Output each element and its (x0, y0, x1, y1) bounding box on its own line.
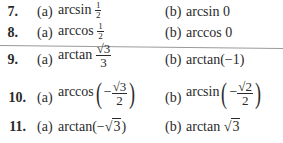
part-b-label: (b) (165, 4, 181, 20)
part-a-expression: arcsin 12 (58, 1, 101, 20)
right-paren: ) (255, 78, 261, 108)
part-a-label: (a) (37, 119, 53, 135)
denominator: 2 (95, 11, 102, 20)
part-a-label: (a) (37, 4, 53, 20)
denominator: 2 (237, 94, 253, 107)
left-paren: ( (221, 78, 227, 108)
fraction: √22 (237, 80, 253, 107)
left-paren: ( (96, 78, 102, 108)
part-a-label: (a) (37, 52, 53, 68)
problem-11: 11. (a) arctan(−√3) (b) arctan √3 (0, 119, 283, 139)
part-b-label: (b) (165, 52, 181, 68)
page-fold-line (0, 45, 283, 49)
right-paren: ) (129, 78, 135, 108)
part-a-expression: arccos(−√32) (58, 78, 137, 108)
problem-number: 11. (0, 119, 26, 135)
problem-9: 9. (a) arctan √33 (b) arctan(−1) (0, 52, 283, 72)
part-a-expression: arccos 12 (58, 22, 104, 41)
numerator: √2 (237, 80, 253, 94)
fraction: √32 (112, 80, 128, 107)
square-root: √3 (224, 119, 241, 135)
problem-8: 8. (a) arccos 12 (b) arccos 0 (0, 25, 283, 45)
denominator: 2 (112, 94, 128, 107)
fraction: 12 (95, 1, 102, 20)
problem-10: 10. (a) arccos(−√32) (b) arcsin(−√22) (0, 90, 283, 110)
function-name: arccos (58, 84, 94, 99)
part-b-label: (b) (165, 90, 181, 106)
part-b-expression: arctan √3 (186, 119, 240, 135)
function-name: arcsin (58, 2, 91, 17)
problem-number: 9. (0, 52, 18, 68)
denominator: 2 (97, 32, 104, 41)
problem-number: 8. (0, 25, 18, 41)
part-b-expression: arctan(−1) (186, 52, 244, 68)
function-name: arccos (58, 23, 94, 38)
part-a-expression: arctan(−√3) (58, 119, 126, 135)
problem-7: 7. (a) arcsin 12 (b) arcsin 0 (0, 4, 283, 24)
function-name: arcsin (186, 84, 219, 99)
fraction: 12 (97, 22, 104, 41)
problem-number: 10. (0, 90, 26, 106)
part-b-label: (b) (165, 119, 181, 135)
part-b-label: (b) (165, 25, 181, 41)
minus-sign: − (104, 84, 112, 99)
part-b-expression: arccos 0 (186, 25, 232, 41)
fraction: √33 (96, 42, 112, 69)
part-a-label: (a) (37, 90, 53, 106)
numerator: √3 (96, 42, 112, 56)
function-name: arctan (58, 119, 92, 134)
radicand: 3 (231, 118, 240, 134)
function-name: arctan (186, 119, 220, 134)
function-name: arctan (58, 47, 92, 62)
open-paren-minus: (− (92, 119, 105, 134)
part-b-expression: arcsin(−√22) (186, 78, 263, 108)
square-root: √3 (105, 119, 122, 135)
part-b-expression: arcsin 0 (186, 4, 230, 20)
close-paren: ) (121, 119, 126, 134)
problem-number: 7. (0, 4, 18, 20)
part-a-expression: arctan √33 (58, 42, 111, 69)
numerator: √3 (112, 80, 128, 94)
minus-sign: − (229, 84, 237, 99)
part-a-label: (a) (37, 25, 53, 41)
denominator: 3 (96, 56, 112, 69)
